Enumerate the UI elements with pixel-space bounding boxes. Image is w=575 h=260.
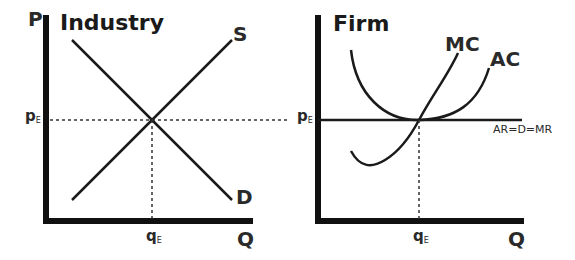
firm-qty-label: qE <box>413 229 429 245</box>
industry-x-axis-label: Q <box>237 229 254 249</box>
industry-price-label: pE <box>25 109 41 125</box>
firm-ac-label: AC <box>490 49 520 69</box>
firm-title: Firm <box>333 13 389 35</box>
firm-mc-curve <box>351 53 458 165</box>
industry-demand-label: D <box>236 187 253 207</box>
firm-ar-d-mr-label: AR=D=MR <box>493 124 552 135</box>
firm-ac-curve <box>351 50 489 120</box>
firm-x-axis-label: Q <box>508 229 525 249</box>
industry-qty-label: qE <box>146 229 162 245</box>
firm-price-label: pE <box>297 109 313 125</box>
industry-y-axis-label: P <box>28 9 43 29</box>
diagram-canvas <box>0 0 575 260</box>
firm-mc-label: MC <box>445 34 480 54</box>
industry-title: Industry <box>60 12 164 34</box>
industry-supply-label: S <box>233 24 247 44</box>
